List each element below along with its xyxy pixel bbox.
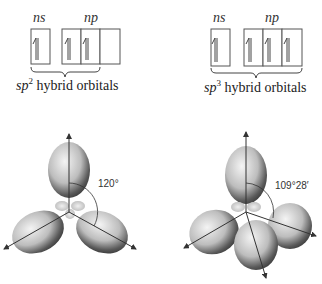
sp3-caption-prefix: sp xyxy=(204,80,216,95)
sp3-ns-label: ns xyxy=(213,10,225,26)
sp3-bond-angle: 109°28′ xyxy=(275,180,309,191)
sp2-caption-prefix: sp xyxy=(16,78,28,93)
sp2-bond-angle: 120° xyxy=(98,178,119,189)
diagram-canvas xyxy=(0,0,322,284)
sp2-ns-label: ns xyxy=(33,10,45,26)
sp2-np-label: np xyxy=(84,10,98,26)
sp2-caption-suffix: hybrid orbitals xyxy=(33,78,119,93)
sp3-caption-suffix: hybrid orbitals xyxy=(221,80,307,95)
sp3-caption: sp3 hybrid orbitals xyxy=(204,78,307,96)
sp2-orbital-boxes xyxy=(31,29,120,77)
sp3-tetrahedral-orbitals xyxy=(183,132,316,278)
sp3-orbital-boxes xyxy=(211,29,302,78)
sp2-trigonal-planar-orbitals xyxy=(4,134,136,262)
sp3-np-label: np xyxy=(265,10,279,26)
sp2-caption: sp2 hybrid orbitals xyxy=(16,76,119,94)
